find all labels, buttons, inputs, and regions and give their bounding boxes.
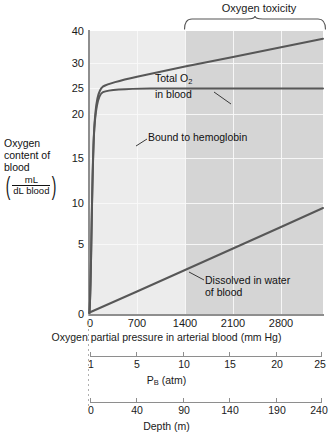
oxygen-toxicity-label: Oxygen toxicity: [185, 2, 333, 14]
oxygen-toxicity-bracket: [183, 16, 327, 30]
depth-tick-mark-140: [229, 398, 230, 402]
gridline-x-700: [137, 31, 138, 314]
figure-root: Oxygen toxicity Total O2: [0, 0, 333, 433]
units-denominator: dL blood: [12, 185, 50, 197]
gridline-y-20: [89, 114, 323, 115]
pb-scale-title-unit: (atm): [159, 374, 186, 386]
depth-tick-240: 240: [310, 405, 328, 416]
depth-scale: 0 40 90 140 190 240 Depth (m): [0, 396, 333, 432]
annotation-total-o2-text: Total O: [155, 72, 188, 84]
annotation-total-o2-subscript: 2: [188, 77, 192, 86]
pb-tick-25: 25: [314, 359, 326, 370]
x-tick-700: 700: [128, 318, 146, 329]
pb-scale-bar: [90, 356, 322, 357]
gridline-y-10: [89, 203, 323, 204]
annotation-bound-hemoglobin: Bound to hemoglobin: [148, 131, 247, 143]
x-tick-2100: 2100: [221, 318, 245, 329]
depth-tick-190: 190: [268, 405, 286, 416]
y-tick-40: 40: [54, 26, 84, 37]
y-axis-units-fraction: ( mL dL blood ): [4, 175, 59, 197]
gridline-y-15: [89, 158, 323, 159]
annotation-dissolved-line1: Dissolved in water: [205, 274, 290, 286]
gridline-y-25: [89, 88, 323, 89]
pb-tick-mark-10: [183, 352, 184, 356]
shaded-band-toxicity: [185, 31, 323, 314]
y-tick-30: 30: [54, 58, 84, 69]
depth-scale-title: Depth (m): [0, 420, 333, 432]
depth-tick-40: 40: [131, 405, 143, 416]
annotation-total-o2-line2: in blood: [155, 88, 192, 100]
units-numerator: mL: [22, 175, 41, 186]
pb-tick-20: 20: [271, 359, 283, 370]
y-axis-title: Oxygen content of blood ( mL dL blood ): [4, 137, 62, 197]
pb-tick-mark-1: [90, 352, 91, 356]
pb-tick-5: 5: [134, 359, 140, 370]
left-paren: (: [6, 176, 11, 196]
x-tick-1400: 1400: [173, 318, 197, 329]
x-axis-line: [88, 314, 324, 316]
depth-tick-0: 0: [88, 405, 94, 416]
annotation-dissolved-water: Dissolved in water of blood: [205, 274, 290, 298]
pb-tick-mark-5: [136, 352, 137, 356]
depth-tick-mark-0: [90, 398, 91, 402]
depth-tick-mark-190: [276, 398, 277, 402]
gridline-y-30: [89, 63, 323, 64]
depth-tick-mark-40: [136, 398, 137, 402]
y-tick-25: 25: [54, 83, 84, 94]
pb-scale-title: PB (atm): [0, 374, 333, 389]
x-tick-2800: 2800: [269, 318, 293, 329]
y-axis-title-line1: Oxygen: [4, 137, 62, 149]
annotation-total-o2: Total O2 in blood: [155, 72, 192, 100]
depth-tick-140: 140: [221, 405, 239, 416]
gridline-x-2100: [233, 31, 234, 314]
pb-scale-title-main: P: [147, 374, 154, 386]
y-axis-title-line2: content of: [4, 149, 62, 161]
depth-tick-90: 90: [178, 405, 190, 416]
pb-tick-mark-25: [321, 352, 322, 356]
pb-tick-1: 1: [88, 359, 94, 370]
y-axis-line: [88, 30, 90, 315]
units-fraction: mL dL blood: [12, 175, 50, 197]
pb-tick-mark-20: [276, 352, 277, 356]
x-axis-title: Oxygen partial pressure in arterial bloo…: [0, 331, 333, 343]
depth-tick-mark-240: [321, 398, 322, 402]
pb-tick-15: 15: [224, 359, 236, 370]
x-axis-tick-labels: 0 700 1400 2100 2800: [0, 318, 333, 332]
pb-tick-10: 10: [178, 359, 190, 370]
pb-tick-mark-15: [229, 352, 230, 356]
depth-tick-mark-90: [183, 398, 184, 402]
gridline-y-5: [89, 244, 323, 245]
y-tick-5: 5: [54, 239, 84, 250]
right-paren: ): [52, 176, 57, 196]
y-tick-10: 10: [54, 198, 84, 209]
y-tick-20: 20: [54, 109, 84, 120]
gridline-x-2800: [281, 31, 282, 314]
pb-scale: 1 5 10 15 20 25 PB (atm): [0, 350, 333, 386]
annotation-dissolved-line2: of blood: [205, 286, 290, 298]
plot-area: [89, 31, 323, 314]
depth-scale-bar: [90, 402, 322, 403]
